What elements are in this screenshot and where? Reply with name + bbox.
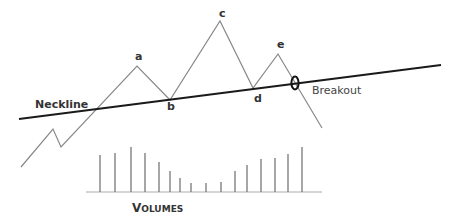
volumes-label-rest: OLUMES (141, 204, 183, 214)
head-and-shoulders-diagram: abcde Neckline Breakout VOLUMES (0, 0, 455, 219)
neckline-label: Neckline (35, 98, 88, 111)
point-label-b: b (167, 100, 175, 113)
volume-bars (100, 147, 302, 192)
point-label-a: a (135, 50, 142, 63)
point-label-d: d (254, 92, 262, 105)
breakout-label: Breakout (312, 84, 362, 97)
point-label-c: c (219, 7, 226, 20)
point-labels: abcde (135, 7, 284, 113)
volumes-label: VOLUMES (132, 201, 183, 215)
point-label-e: e (277, 38, 284, 51)
